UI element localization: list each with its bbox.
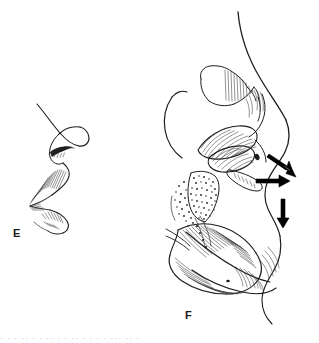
airflow-arrow-horizontal (256, 175, 290, 187)
airflow-arrow-vertical (277, 199, 289, 228)
panel-f-drawing (164, 12, 289, 324)
panel-e-drawing (30, 104, 89, 234)
panel-label-f: F (185, 310, 192, 321)
cropped-caption-fragment: · · · ·· · · ·· · · ·· · · · · ··· ·· · (0, 333, 319, 343)
panel-label-e: E (13, 228, 21, 239)
figure-canvas (0, 0, 319, 343)
illustration-page: E F · · · ·· · · ·· · · ·· · · · · ··· ·… (0, 0, 319, 343)
stipple-texture (190, 175, 217, 220)
